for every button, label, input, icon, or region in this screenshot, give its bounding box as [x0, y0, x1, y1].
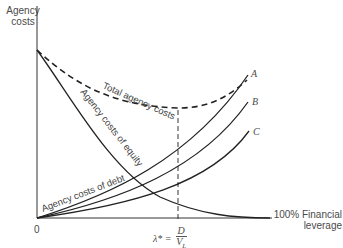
lambda-denominator: VL — [176, 237, 186, 248]
optimal-leverage-label: λ* = D VL — [153, 226, 187, 248]
debt-cost-label: Agency costs of debt — [40, 172, 127, 214]
curve-b-label: B — [252, 96, 258, 107]
lambda-fraction: D VL — [176, 226, 187, 248]
total-cost-label: Total agency costs — [101, 80, 177, 122]
origin-label: 0 — [34, 224, 40, 235]
debt-curve-c — [37, 131, 249, 218]
curve-c-label: C — [253, 126, 260, 137]
lambda-den-sub: L — [182, 242, 186, 248]
x-axis-title: 100% Financial leverage — [272, 209, 342, 231]
lambda-prefix: λ* = — [153, 233, 172, 244]
x-axis-title-line2: leverage — [272, 220, 342, 231]
x-axis-title-line1: 100% Financial — [272, 209, 342, 220]
curve-a-label: A — [251, 68, 257, 79]
